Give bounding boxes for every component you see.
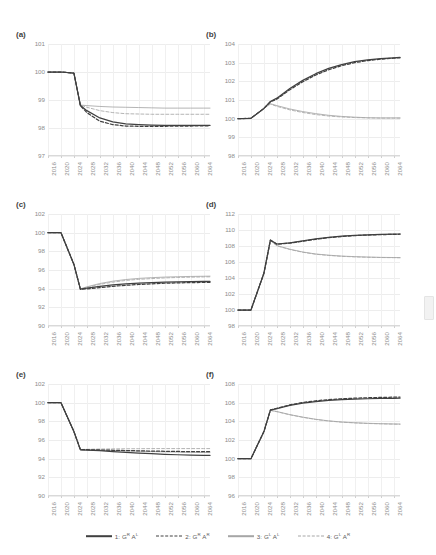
x-axis-tick-label: 2024 — [267, 332, 273, 346]
y-axis-tick-label: 112 — [225, 211, 235, 217]
x-axis-tickmark — [48, 156, 49, 158]
x-axis-tickmark — [342, 156, 343, 158]
x-axis-tick-label: 2016 — [241, 332, 247, 346]
x-axis-tick-label: 2056 — [181, 502, 187, 516]
panel-d: (d)9810010210410610811011220162020202420… — [206, 200, 406, 356]
y-axis-tick-label: 103 — [225, 60, 235, 66]
series-line-1 — [238, 234, 400, 310]
x-axis-tick-label: 2032 — [103, 502, 109, 516]
legend-item-4[interactable]: 4: GL AR — [298, 532, 351, 540]
x-axis-tickmark — [329, 496, 330, 498]
legend-label-2: 2: GR AR — [185, 532, 209, 540]
series-line-2 — [238, 234, 400, 310]
plot-area-e: 9092949698100102201620202024202820322036… — [48, 384, 210, 496]
y-axis-tick-label: 106 — [225, 400, 235, 406]
x-axis-tickmark — [342, 326, 343, 328]
legend-superscript-a: R — [347, 532, 350, 537]
legend-item-2[interactable]: 2: GR AR — [156, 532, 209, 540]
legend-item-3[interactable]: 3: GL AL — [228, 532, 280, 540]
x-axis-tickmark — [178, 326, 179, 328]
panel-label-d: (d) — [206, 200, 216, 209]
y-axis-tick-label: 92 — [38, 474, 45, 480]
y-axis-tick-label: 108 — [225, 243, 235, 249]
x-axis-tick-label: 2020 — [254, 502, 260, 516]
y-axis-tick-label: 101 — [35, 41, 45, 47]
series-lines-f — [238, 384, 400, 496]
page-edge-marker — [424, 296, 434, 320]
x-axis-tickmark — [355, 156, 356, 158]
x-axis-tickmark — [61, 496, 62, 498]
plot-area-d: 9810010210410610811011220162020202420282… — [238, 214, 400, 326]
x-axis-tickmark — [394, 496, 395, 498]
x-axis-tickmark — [139, 496, 140, 498]
panel-e: (e)9092949698100102201620202024202820322… — [16, 370, 216, 526]
x-axis-tick-label: 2028 — [90, 162, 96, 176]
x-axis-tickmark — [204, 326, 205, 328]
legend-line-sample — [156, 536, 182, 537]
x-axis-tick-label: 2040 — [129, 332, 135, 346]
x-axis-tick-label: 2020 — [64, 332, 70, 346]
x-axis-tick-label: 2056 — [371, 332, 377, 346]
x-axis-tick-label: 2044 — [142, 502, 148, 516]
x-axis-tickmark — [139, 326, 140, 328]
y-axis-tick-label: 102 — [225, 291, 235, 297]
x-axis-tick-label: 2032 — [293, 162, 299, 176]
series-line-3 — [48, 72, 210, 108]
x-axis-tickmark — [48, 326, 49, 328]
x-axis-tickmark — [316, 156, 317, 158]
chart-legend: 1: GR AL2: GR AR3: GL AL4: GL AR — [0, 526, 436, 546]
y-axis-tick-label: 96 — [228, 493, 235, 499]
x-axis-tickmark — [100, 156, 101, 158]
x-axis-tickmark — [113, 156, 114, 158]
x-axis-tick-label: 2052 — [168, 162, 174, 176]
x-axis-tickmark — [204, 496, 205, 498]
legend-label-4: 4: GL AR — [327, 532, 351, 540]
y-axis-tick-label: 101 — [225, 97, 235, 103]
legend-item-1[interactable]: 1: GR AL — [86, 532, 139, 540]
x-axis-tickmark — [74, 326, 75, 328]
y-axis-tick-label: 98 — [38, 125, 45, 131]
x-axis-tickmark — [316, 326, 317, 328]
x-axis-tick-label: 2056 — [371, 162, 377, 176]
y-axis-tick-label: 110 — [225, 227, 235, 233]
x-axis-tickmark — [113, 326, 114, 328]
x-axis-tickmark — [204, 156, 205, 158]
legend-swatch-3 — [228, 533, 254, 540]
series-lines-d — [238, 214, 400, 326]
x-axis-tick-label: 2036 — [116, 502, 122, 516]
x-axis-tick-label: 2048 — [155, 502, 161, 516]
x-axis-tickmark — [238, 326, 239, 328]
x-axis-tick-label: 2060 — [194, 162, 200, 176]
panel-f: (f)9698100102104106108201620202024202820… — [206, 370, 406, 526]
x-axis-tickmark — [113, 496, 114, 498]
x-axis-tick-label: 2048 — [155, 162, 161, 176]
x-axis-tick-label: 2016 — [241, 502, 247, 516]
x-axis-tick-label: 2040 — [319, 502, 325, 516]
y-axis-tick-label: 100 — [225, 456, 235, 462]
y-axis-tick-label: 100 — [35, 230, 45, 236]
gridline-horizontal — [238, 496, 400, 497]
x-axis-tick-label: 2048 — [345, 332, 351, 346]
y-axis-tick-label: 106 — [225, 259, 235, 265]
y-axis-tick-label: 96 — [38, 267, 45, 273]
x-axis-tick-label: 2048 — [345, 162, 351, 176]
panel-label-c: (c) — [16, 200, 26, 209]
y-axis-tick-label: 102 — [35, 211, 45, 217]
series-lines-a — [48, 44, 210, 156]
x-axis-tickmark — [191, 496, 192, 498]
series-line-1 — [48, 72, 210, 125]
x-axis-tick-label: 2020 — [254, 162, 260, 176]
legend-label-prefix: 3: G — [257, 533, 269, 540]
y-axis-tick-label: 97 — [38, 153, 45, 159]
x-axis-tick-label: 2044 — [332, 332, 338, 346]
x-axis-tick-label: 2052 — [168, 332, 174, 346]
series-line-2 — [48, 233, 210, 290]
x-axis-tickmark — [290, 156, 291, 158]
x-axis-tickmark — [394, 326, 395, 328]
x-axis-tick-label: 2040 — [319, 162, 325, 176]
x-axis-tick-label: 2020 — [254, 332, 260, 346]
x-axis-tickmark — [191, 156, 192, 158]
x-axis-tick-label: 2032 — [293, 502, 299, 516]
x-axis-tickmark — [355, 326, 356, 328]
x-axis-tick-label: 2032 — [103, 162, 109, 176]
